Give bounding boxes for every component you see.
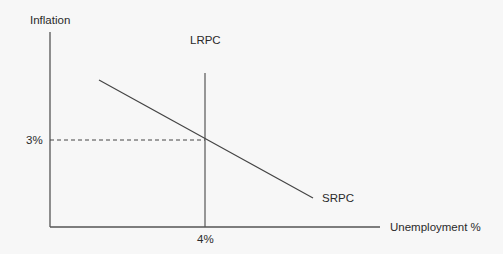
lrpc-label: LRPC — [190, 34, 221, 46]
phillips-curve-chart: Inflation Unemployment % LRPC SRPC 3% 4% — [0, 0, 503, 254]
srpc-line — [99, 80, 313, 198]
x-axis-label: Unemployment % — [390, 221, 481, 233]
x-tick-label: 4% — [197, 233, 214, 245]
y-tick-label: 3% — [26, 134, 43, 146]
srpc-label: SRPC — [322, 192, 354, 204]
y-axis-label: Inflation — [30, 14, 70, 26]
